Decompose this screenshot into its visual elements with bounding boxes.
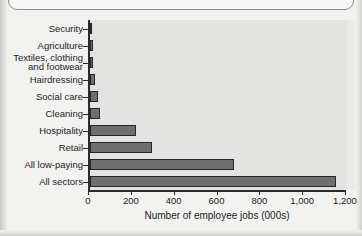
- bar: [90, 40, 93, 51]
- x-axis-tick-label: 200: [123, 196, 139, 206]
- category-label: Hairdressing: [0, 75, 83, 85]
- y-axis-tick: [83, 63, 88, 64]
- x-axis-tick-label: 600: [209, 196, 225, 206]
- category-label: Retail: [0, 143, 83, 153]
- category-label: Agriculture: [0, 41, 83, 51]
- category-label: All sectors: [0, 177, 83, 187]
- category-axis-labels: SecurityAgricultureTextiles, clothing an…: [0, 20, 86, 190]
- category-label: All low-paying: [0, 160, 83, 170]
- category-label: Security: [0, 24, 83, 34]
- y-axis-tick: [83, 148, 88, 149]
- bar: [90, 57, 93, 68]
- bar: [90, 125, 136, 136]
- bar: [90, 142, 152, 153]
- plot-area: [88, 20, 347, 190]
- scanned-page: SecurityAgricultureTextiles, clothing an…: [0, 0, 362, 236]
- category-label: Social care: [0, 92, 83, 102]
- x-axis-title: Number of employee jobs (000s): [88, 210, 346, 221]
- category-label: Cleaning: [0, 109, 83, 119]
- bar-chart: SecurityAgricultureTextiles, clothing an…: [0, 8, 362, 230]
- category-label: Textiles, clothing and footwear: [0, 53, 83, 72]
- y-axis-tick: [83, 165, 88, 166]
- bar: [90, 176, 336, 187]
- y-axis-tick: [83, 97, 88, 98]
- bar: [90, 108, 100, 119]
- y-axis-tick: [83, 29, 88, 30]
- x-axis-tick-label: 800: [251, 196, 267, 206]
- bar: [90, 159, 234, 170]
- x-axis-tick-label: 1,000: [290, 196, 314, 206]
- category-label: Hospitality: [0, 126, 83, 136]
- bar: [90, 23, 92, 34]
- y-axis-tick: [83, 80, 88, 81]
- bar: [90, 91, 98, 102]
- x-axis-tick-label: 400: [166, 196, 182, 206]
- y-axis-tick: [83, 114, 88, 115]
- y-axis-tick: [83, 182, 88, 183]
- x-axis-tick-label: 1,200: [333, 196, 357, 206]
- y-axis-tick: [83, 131, 88, 132]
- y-axis-tick: [83, 46, 88, 47]
- x-axis-tick-label: 0: [85, 196, 90, 206]
- bar: [90, 74, 95, 85]
- scan-edge-bottom: [0, 230, 362, 236]
